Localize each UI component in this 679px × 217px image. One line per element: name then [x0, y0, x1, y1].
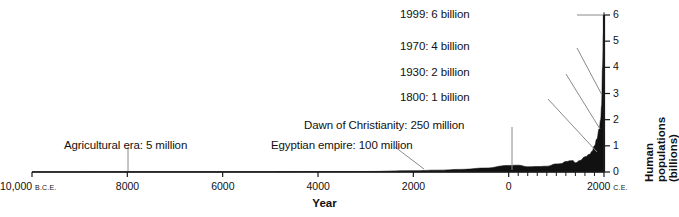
- annotation-dawn-of-christianity: Dawn of Christianity: 250 million: [304, 119, 464, 131]
- leader-1970-4-billion: [577, 48, 602, 95]
- annotation-egyptian-empire: Egyptian empire: 100 million: [271, 139, 413, 151]
- y-tick-label-0: 0: [613, 165, 619, 177]
- x-tick-label-4: 2000: [402, 180, 425, 192]
- annotation-1970-4-billion: 1970: 4 billion: [400, 40, 469, 52]
- x-tick-label-2: 6000: [211, 180, 234, 192]
- x-tick-label-3: 4000: [307, 180, 330, 192]
- x-tick-label-6: 2000 C.E.: [587, 180, 628, 192]
- y-tick-label-3: 3: [613, 87, 619, 99]
- y-tick-label-6: 6: [613, 8, 619, 20]
- y-tick-label-4: 4: [613, 60, 619, 72]
- annotation-agricultural-era: Agricultural era: 5 million: [64, 139, 187, 151]
- y-tick-label-2: 2: [613, 113, 619, 125]
- y-axis-title: Human populations (billions): [643, 117, 679, 182]
- x-tick-label-1: 8000: [116, 180, 139, 192]
- x-tick-label-5: 0: [506, 180, 512, 192]
- annotation-1930-2-billion: 1930: 2 billion: [400, 66, 469, 78]
- y-tick-label-1: 1: [613, 139, 619, 151]
- x-axis-title: Year: [0, 197, 649, 209]
- annotation-1999-6-billion: 1999: 6 billion: [400, 8, 469, 20]
- x-tick-label-0: 10,000 B.C.E.: [0, 180, 56, 192]
- y-tick-label-5: 5: [613, 34, 619, 46]
- annotation-1800-1-billion: 1800: 1 billion: [400, 91, 469, 103]
- leader-1800-1-billion: [548, 99, 597, 152]
